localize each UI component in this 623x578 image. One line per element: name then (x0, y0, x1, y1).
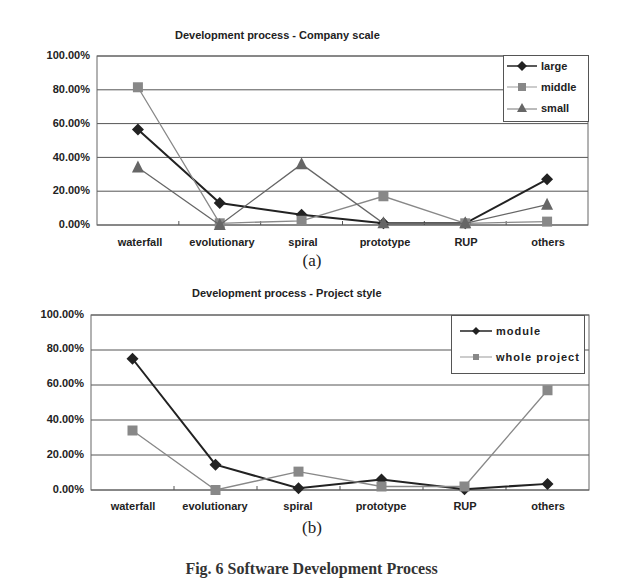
legend-item-large: large (507, 59, 567, 73)
series-whole-project (128, 385, 553, 495)
legend-label: middle (541, 81, 576, 93)
square-marker-icon (378, 191, 388, 201)
y-tick-label: 40.00% (20, 413, 84, 425)
square-marker-icon (460, 482, 470, 492)
figure-caption: Fig. 6 Software Development Process (0, 560, 623, 578)
x-tick-label: evolutionary (170, 500, 260, 512)
y-tick-label: 60.00% (20, 377, 84, 389)
y-tick-label: 40.00% (26, 151, 90, 163)
series-line (133, 390, 548, 490)
legend-item-module: module (460, 324, 541, 338)
diamond-marker-icon (507, 59, 537, 73)
series-line (133, 359, 548, 489)
legend: module whole project (451, 315, 585, 374)
y-tick-label: 80.00% (26, 83, 90, 95)
chart-company-scale: Development process - Company scale 100.… (0, 0, 623, 262)
triangle-marker-icon (132, 161, 144, 173)
subfigure-caption: (b) (282, 518, 342, 538)
x-tick-label: RUP (420, 500, 510, 512)
square-marker-icon (543, 385, 553, 395)
series-line (138, 87, 547, 223)
diamond-marker-icon (293, 482, 305, 494)
y-tick-label: 100.00% (26, 49, 90, 61)
series-large (132, 124, 553, 230)
y-tick-label: 60.00% (26, 117, 90, 129)
series-line (138, 130, 547, 224)
x-tick-label: prototype (336, 500, 426, 512)
diamond-marker-icon (542, 478, 554, 490)
y-tick-label: 20.00% (20, 448, 84, 460)
y-tick-label: 80.00% (20, 342, 84, 354)
x-tick-label: evolutionary (177, 236, 267, 248)
triangle-marker-icon (296, 157, 308, 169)
x-tick-label: waterfall (95, 236, 185, 248)
y-tick-label: 100.00% (20, 308, 84, 320)
x-tick-label: prototype (340, 236, 430, 248)
square-marker-icon (297, 216, 307, 226)
square-marker-icon (211, 485, 221, 495)
legend-label: large (541, 60, 567, 72)
legend-item-middle: middle (507, 80, 576, 94)
y-tick-label: 0.00% (20, 483, 84, 495)
legend-label: small (541, 102, 569, 114)
x-tick-label: spiral (253, 500, 343, 512)
square-marker-icon (133, 82, 143, 92)
square-marker-icon (128, 426, 138, 436)
square-marker-icon (377, 482, 387, 492)
square-marker-icon (507, 80, 537, 94)
x-tick-label: others (503, 236, 593, 248)
square-marker-icon (460, 350, 492, 364)
triangle-marker-icon (507, 101, 537, 115)
legend: large middle small (503, 55, 589, 122)
legend-item-whole-project: whole project (460, 350, 580, 364)
plot-area (0, 0, 623, 262)
legend-label: whole project (496, 351, 580, 363)
diamond-marker-icon (541, 173, 553, 185)
x-tick-label: RUP (421, 236, 511, 248)
x-tick-label: waterfall (88, 500, 178, 512)
chart-project-style: Development process - Project style 100.… (0, 262, 623, 552)
triangle-marker-icon (541, 198, 553, 210)
x-tick-label: spiral (258, 236, 348, 248)
y-tick-label: 0.00% (26, 218, 90, 230)
series-module (127, 353, 554, 495)
series-middle (133, 82, 552, 228)
legend-item-small: small (507, 101, 569, 115)
x-tick-label: others (503, 500, 593, 512)
square-marker-icon (542, 217, 552, 227)
y-tick-label: 20.00% (26, 184, 90, 196)
legend-label: module (496, 325, 541, 337)
diamond-marker-icon (460, 324, 492, 338)
series-line (138, 164, 547, 225)
square-marker-icon (294, 467, 304, 477)
